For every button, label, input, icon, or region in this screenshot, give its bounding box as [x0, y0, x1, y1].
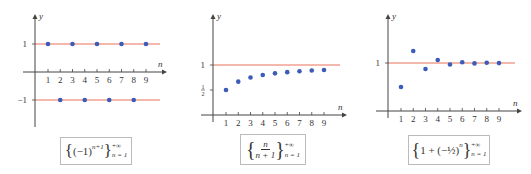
- formula-1-upper: +∞: [112, 142, 127, 151]
- x-tick-label: 5: [95, 75, 100, 85]
- data-point: [144, 42, 149, 47]
- y-axis-label: y: [391, 11, 396, 21]
- x-tick-label: 9: [144, 75, 149, 85]
- x-axis-arrow-icon: [342, 113, 347, 118]
- x-tick-label: 8: [485, 114, 490, 124]
- x-tick-label: 5: [448, 114, 453, 124]
- y-tick-label: 1: [376, 58, 381, 68]
- x-tick-label: 6: [460, 114, 465, 124]
- formula-3-lower: n = 1: [471, 150, 486, 159]
- formula-box-2: { n n + 1 } +∞ n = 1: [240, 134, 306, 165]
- data-point: [46, 42, 51, 47]
- data-point: [131, 98, 136, 103]
- data-point: [236, 79, 241, 84]
- y-axis-arrow-icon: [33, 14, 38, 19]
- x-tick-label: 2: [236, 118, 241, 128]
- data-point: [70, 42, 75, 47]
- data-point: [273, 71, 278, 76]
- y-tick-label: −1: [17, 95, 27, 105]
- formula-3-upper: +∞: [471, 141, 486, 150]
- data-point: [285, 70, 290, 75]
- formula-2-numerator: n: [261, 139, 270, 150]
- formula-1-exp: n+1: [92, 143, 104, 151]
- data-point: [309, 68, 314, 73]
- x-axis-arrow-icon: [162, 70, 167, 75]
- data-point: [448, 62, 453, 67]
- data-point: [107, 98, 112, 103]
- x-tick-label: 5: [273, 118, 278, 128]
- plot-2: yn123456789112: [201, 11, 348, 128]
- x-axis-label: n: [338, 102, 343, 112]
- data-point: [460, 60, 465, 65]
- x-tick-label: 6: [285, 118, 290, 128]
- x-tick-label: 8: [132, 75, 137, 85]
- x-tick-label: 8: [310, 118, 315, 128]
- x-axis-label: n: [513, 98, 518, 108]
- data-point: [224, 88, 229, 93]
- formula-box-3: { 1 + (−½)n } +∞ n = 1: [408, 135, 490, 165]
- x-tick-label: 1: [399, 114, 404, 124]
- x-axis-arrow-icon: [517, 109, 522, 114]
- data-point: [399, 85, 404, 90]
- formula-2-upper: +∞: [285, 140, 300, 150]
- y-axis-arrow-icon: [211, 14, 216, 19]
- data-point: [297, 69, 302, 74]
- data-point: [260, 73, 265, 78]
- x-axis-label: n: [158, 59, 163, 69]
- x-tick-label: 1: [46, 75, 51, 85]
- svg-text:2: 2: [202, 91, 205, 97]
- data-point: [322, 68, 327, 73]
- x-tick-label: 7: [472, 114, 477, 124]
- y-tick-label: 1: [201, 60, 206, 70]
- data-point: [58, 98, 63, 103]
- x-tick-label: 9: [322, 118, 327, 128]
- plot-3: yn1234567891: [376, 11, 523, 124]
- formula-2-denominator: n + 1: [256, 150, 276, 160]
- y-axis-label: y: [216, 11, 221, 21]
- x-tick-label: 4: [261, 118, 266, 128]
- data-point: [423, 67, 428, 72]
- data-point: [472, 61, 477, 66]
- y-tick-label: 1: [23, 39, 28, 49]
- svg-text:1: 1: [202, 84, 205, 90]
- x-tick-label: 4: [83, 75, 88, 85]
- formula-3-base: (−½): [437, 144, 459, 156]
- x-tick-label: 2: [58, 75, 63, 85]
- plot-1: yn1234567891−1: [17, 11, 167, 127]
- data-point: [248, 75, 253, 80]
- data-point: [484, 61, 489, 66]
- data-point: [95, 42, 100, 47]
- x-tick-label: 7: [119, 75, 124, 85]
- data-point: [497, 61, 502, 66]
- data-point: [435, 58, 440, 63]
- data-point: [82, 98, 87, 103]
- formula-3-lead: 1 +: [420, 144, 437, 156]
- x-tick-label: 3: [70, 75, 75, 85]
- y-axis-arrow-icon: [386, 14, 391, 19]
- formula-1-lower: n = 1: [112, 151, 127, 160]
- x-tick-label: 2: [411, 114, 416, 124]
- formula-2-lower: n = 1: [285, 150, 300, 160]
- formula-box-1: {(−1)n+1} +∞ n = 1: [60, 137, 132, 165]
- x-tick-label: 3: [248, 118, 253, 128]
- x-tick-label: 4: [436, 114, 441, 124]
- data-point: [119, 42, 124, 47]
- x-tick-label: 3: [423, 114, 428, 124]
- x-tick-label: 7: [297, 118, 302, 128]
- x-tick-label: 1: [224, 118, 229, 128]
- x-tick-label: 9: [497, 114, 502, 124]
- data-point: [411, 49, 416, 54]
- x-tick-label: 6: [107, 75, 112, 85]
- formula-1-base: (−1): [73, 145, 92, 157]
- y-axis-label: y: [38, 11, 43, 21]
